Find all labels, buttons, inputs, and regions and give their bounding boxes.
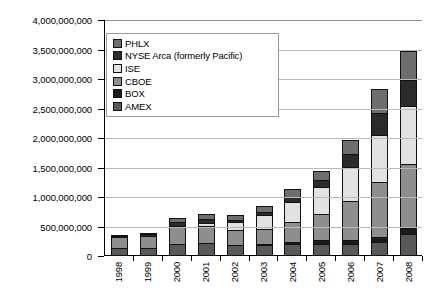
- y-axis-tick: [98, 256, 104, 257]
- bar-column: [371, 89, 388, 255]
- y-axis-tick: [98, 79, 104, 80]
- legend-item: ISE: [113, 62, 274, 75]
- bar-segment: [284, 202, 301, 223]
- legend-swatch-icon: [113, 77, 122, 86]
- bar-segment: [342, 154, 359, 168]
- legend-item: CBOE: [113, 75, 274, 88]
- bar-segment: [169, 227, 186, 245]
- x-axis-tick: [249, 256, 250, 261]
- legend-item: PHLX: [113, 37, 274, 50]
- y-axis-tick: [98, 227, 104, 228]
- bar-segment: [313, 244, 330, 256]
- x-axis-tick-label: 2002: [229, 262, 240, 282]
- legend-swatch-icon: [113, 102, 122, 111]
- legend-label: AMEX: [125, 101, 151, 112]
- y-axis-tick: [98, 197, 104, 198]
- legend-label: BOX: [125, 88, 145, 99]
- x-axis-tick: [306, 256, 307, 261]
- x-axis-tick-label: 1998: [113, 262, 124, 282]
- chart-legend: PHLXNYSE Arca (formerly Pacific)ISECBOEB…: [106, 33, 279, 117]
- bar-segment: [342, 201, 359, 241]
- y-axis-tick: [98, 109, 104, 110]
- legend-swatch-icon: [113, 64, 122, 73]
- bar-column: [111, 235, 128, 255]
- x-axis-tick: [277, 256, 278, 261]
- x-axis-tick-label: 2001: [200, 262, 211, 282]
- bar-column: [140, 233, 157, 255]
- x-axis-tick: [335, 256, 336, 261]
- bar-segment: [371, 242, 388, 256]
- x-axis-tick-label: 2007: [374, 262, 385, 282]
- x-axis-tick-label: 2003: [258, 262, 269, 282]
- bar-column: [198, 214, 215, 255]
- legend-label: NYSE Arca (formerly Pacific): [125, 50, 242, 61]
- y-axis-tick-label: 2,000,000,000: [33, 133, 92, 144]
- y-axis-tick: [98, 138, 104, 139]
- y-axis-tick: [98, 50, 104, 51]
- bar-column: [256, 206, 273, 255]
- bar-segment: [284, 222, 301, 243]
- x-axis-tick-label: 2005: [316, 262, 327, 282]
- gridline: [105, 20, 422, 21]
- gridline: [105, 168, 422, 169]
- y-axis-tick: [98, 168, 104, 169]
- bar-segment: [140, 248, 157, 256]
- chart-figure: 4,000,000,0003,500,000,0003,000,000,0002…: [0, 0, 435, 301]
- x-axis-tick: [133, 256, 134, 261]
- x-axis-tick: [191, 256, 192, 261]
- bar-segment: [227, 245, 244, 256]
- x-axis-ticks: [104, 256, 422, 261]
- y-axis-tick-label: 0: [87, 251, 92, 262]
- gridline: [105, 138, 422, 139]
- x-axis-tick-label: 1999: [142, 262, 153, 282]
- y-axis-labels: 4,000,000,0003,500,000,0003,000,000,0002…: [0, 20, 100, 256]
- x-axis-tick-label: 2006: [345, 262, 356, 282]
- x-axis-tick: [220, 256, 221, 261]
- legend-swatch-icon: [113, 89, 122, 98]
- y-axis-tick-label: 1,500,000,000: [33, 162, 92, 173]
- bar-segment: [313, 187, 330, 215]
- x-axis-tick-label: 2000: [171, 262, 182, 282]
- legend-item: AMEX: [113, 100, 274, 113]
- bar-segment: [313, 214, 330, 242]
- bar-column: [400, 51, 417, 255]
- legend-label: CBOE: [125, 76, 151, 87]
- y-axis-tick-label: 500,000,000: [40, 221, 92, 232]
- legend-label: PHLX: [125, 38, 149, 49]
- x-axis-tick-label: 2008: [403, 262, 414, 282]
- bar-segment: [371, 89, 388, 114]
- bar-segment: [284, 244, 301, 256]
- x-axis-tick: [364, 256, 365, 261]
- x-axis-tick: [162, 256, 163, 261]
- y-axis-tick-label: 3,000,000,000: [33, 74, 92, 85]
- x-axis-tick: [422, 256, 423, 261]
- x-axis-labels: 1998199920002001200220032004200520062007…: [104, 262, 422, 301]
- bar-segment: [342, 140, 359, 155]
- bar-segment: [227, 230, 244, 246]
- bar-segment: [371, 113, 388, 136]
- y-axis-tick: [98, 20, 104, 21]
- bar-segment: [342, 244, 359, 256]
- bar-segment: [371, 182, 388, 238]
- y-axis-tick-label: 4,000,000,000: [33, 15, 92, 26]
- legend-swatch-icon: [113, 51, 122, 60]
- bar-segment: [256, 215, 273, 229]
- bar-segment: [111, 248, 128, 256]
- bar-segment: [371, 135, 388, 182]
- bar-column: [227, 215, 244, 255]
- bar-column: [313, 171, 330, 255]
- y-axis-tick-label: 1,000,000,000: [33, 192, 92, 203]
- gridline: [105, 197, 422, 198]
- bar-segment: [400, 234, 417, 256]
- bar-segment: [256, 245, 273, 256]
- bar-column: [284, 189, 301, 255]
- x-axis-tick-label: 2004: [287, 262, 298, 282]
- bar-segment: [169, 244, 186, 256]
- bar-segment: [198, 243, 215, 256]
- bar-column: [169, 218, 186, 255]
- legend-swatch-icon: [113, 39, 122, 48]
- bar-segment: [400, 106, 417, 164]
- legend-label: ISE: [125, 63, 140, 74]
- bar-segment: [400, 51, 417, 82]
- gridline: [105, 227, 422, 228]
